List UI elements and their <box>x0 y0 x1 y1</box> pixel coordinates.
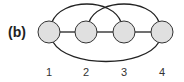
node-4 <box>151 21 173 43</box>
node-3 <box>113 21 135 43</box>
edge-1-4 <box>53 42 159 62</box>
node-label-4: 4 <box>159 66 165 78</box>
node-2 <box>75 21 97 43</box>
graph-diagram: (b) 1 2 3 4 <box>0 0 184 82</box>
edges <box>52 4 159 62</box>
edge-2-4 <box>89 4 159 22</box>
node-label-1: 1 <box>46 66 52 78</box>
node-1 <box>38 21 60 43</box>
node-label-3: 3 <box>121 66 127 78</box>
panel-label: (b) <box>8 24 26 40</box>
node-label-2: 2 <box>83 66 89 78</box>
edge-1-3 <box>52 4 121 22</box>
